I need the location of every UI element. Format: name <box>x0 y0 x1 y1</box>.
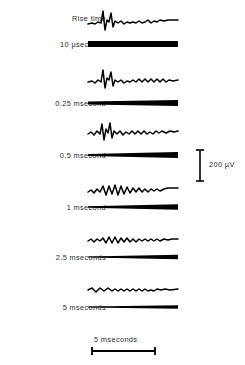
trace-row-1-msecond <box>88 185 178 195</box>
vertical-calibration-bar <box>196 150 204 181</box>
stimulus-bar-1-msecond <box>88 204 178 210</box>
stimulus-bar-10-useconds <box>88 41 178 47</box>
trace-row-25-mseconds <box>88 237 178 243</box>
stimulus-bar-05-msecond <box>88 152 178 158</box>
stimulus-bar-025-msecond <box>88 100 178 106</box>
stimulus-bar-25-mseconds <box>88 255 178 260</box>
trace-row-5-mseconds <box>88 288 178 292</box>
trace-row-025-msecond <box>88 70 178 88</box>
trace-row-05-msecond <box>88 123 178 140</box>
time-calibration-bar <box>92 347 155 355</box>
figure-panel: Rise time 10 µseconds 0.25 msecond 0.5 m… <box>0 0 245 365</box>
waveform-canvas <box>0 0 245 365</box>
trace-row-10-useconds <box>88 11 178 30</box>
stimulus-bar-5-mseconds <box>88 305 178 309</box>
